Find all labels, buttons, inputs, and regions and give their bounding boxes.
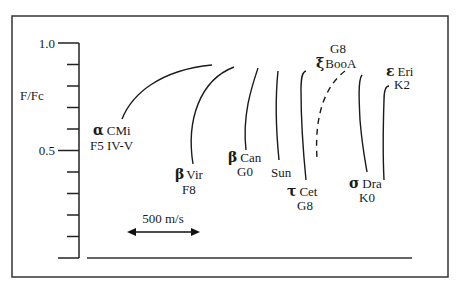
curve-epsilon-eri (383, 86, 389, 180)
scale-bar-arrow (127, 228, 200, 236)
label-sigma-dra: σDra K0 (349, 175, 382, 205)
svg-text:F8: F8 (182, 182, 196, 197)
svg-text:τCet: τCet (287, 183, 318, 199)
bisector-chart: 1.0 0.5 F/Fc 500 m/s αCMi F5 IV-V βVir F… (0, 0, 461, 288)
label-xi-boo-a: G8 ξBooA (316, 41, 357, 71)
curve-xi-boo-a (317, 71, 345, 158)
y-axis-label: F/Fc (20, 88, 44, 103)
svg-text:αCMi: αCMi (93, 122, 131, 138)
svg-text:G8: G8 (330, 41, 346, 56)
label-epsilon-eri: εEri K2 (386, 63, 414, 92)
curve-alpha-cmi (122, 65, 212, 119)
svg-text:βVir: βVir (175, 166, 204, 182)
label-beta-vir: βVir F8 (175, 166, 204, 197)
label-tau-cet: τCet G8 (287, 183, 318, 213)
svg-text:F5 IV-V: F5 IV-V (90, 138, 134, 153)
svg-text:σDra: σDra (349, 175, 382, 191)
curve-sigma-dra (359, 75, 367, 172)
curve-sun (276, 71, 279, 160)
y-tick-label-1-0: 1.0 (39, 36, 55, 51)
scale-bar-label: 500 m/s (142, 211, 184, 226)
svg-text:βCan: βCan (228, 149, 262, 165)
y-axis (58, 43, 79, 258)
svg-text:K0: K0 (359, 190, 375, 205)
svg-text:G0: G0 (237, 164, 253, 179)
svg-text:G8: G8 (297, 198, 313, 213)
svg-text:ξBooA: ξBooA (316, 55, 357, 71)
label-sun: Sun (271, 165, 292, 180)
label-alpha-cmi: αCMi F5 IV-V (90, 122, 134, 153)
curve-beta-can (245, 68, 258, 150)
label-beta-can: βCan G0 (228, 149, 262, 179)
svg-text:K2: K2 (394, 77, 410, 92)
curve-tau-cet (301, 71, 306, 180)
y-tick-label-0-5: 0.5 (39, 143, 55, 158)
